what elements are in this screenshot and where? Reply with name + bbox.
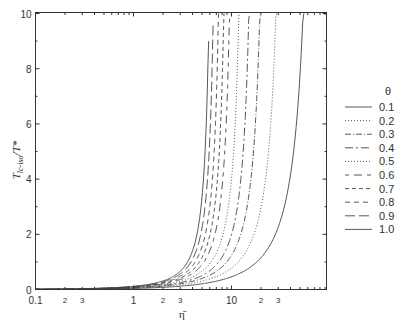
legend-item: 0.6 <box>345 169 394 181</box>
y-axis-title: Tlc-iso/T* <box>10 140 25 179</box>
plot-frame <box>36 13 327 290</box>
curve-theta-0.2 <box>36 14 277 290</box>
y-tick-label: 6 <box>26 119 32 130</box>
x-minor-tick-label: 3 <box>178 296 183 305</box>
curve-theta-0.9 <box>36 25 214 290</box>
curve-theta-0.6 <box>36 14 230 290</box>
legend-item: 1.0 <box>345 223 394 235</box>
x-axis-ticks: 0.1110232323 <box>29 13 325 306</box>
legend-label: 0.5 <box>379 155 394 167</box>
curve-theta-0.4 <box>36 14 250 290</box>
x-tick-label: 0.1 <box>29 295 43 306</box>
chart: 0246810 0.1110232323 Tlc-iso/T* η̄ θ 0.1… <box>0 0 406 328</box>
legend-item: 0.2 <box>345 115 394 127</box>
legend-label: 0.6 <box>379 169 394 181</box>
legend-title: θ <box>385 85 391 97</box>
legend-item: 0.9 <box>345 210 394 222</box>
legend: θ 0.10.20.30.40.50.60.70.80.91.0 <box>345 85 394 235</box>
legend-label: 0.8 <box>379 196 394 208</box>
curve-theta-0.7 <box>36 14 225 290</box>
curve-theta-0.8 <box>36 14 219 290</box>
legend-label: 0.4 <box>379 142 394 154</box>
legend-item: 0.7 <box>345 183 394 195</box>
y-axis-ticks: 0246810 <box>20 9 326 296</box>
x-minor-tick-label: 2 <box>259 296 264 305</box>
x-axis-title: η̄ <box>179 308 187 320</box>
legend-item: 0.3 <box>345 128 394 140</box>
x-tick-label: 10 <box>226 295 238 306</box>
x-tick-label: 1 <box>131 295 137 306</box>
curve-theta-0.3 <box>36 14 261 290</box>
y-tick-label: 8 <box>26 64 32 75</box>
legend-label: 0.7 <box>379 183 394 195</box>
x-minor-tick-label: 3 <box>80 296 85 305</box>
y-tick-label: 2 <box>26 229 32 240</box>
legend-label: 0.2 <box>379 115 394 127</box>
y-tick-label: 10 <box>20 9 32 20</box>
legend-item: 0.1 <box>345 101 394 113</box>
x-minor-tick-label: 2 <box>161 296 166 305</box>
y-tick-label: 4 <box>26 174 32 185</box>
legend-label: 1.0 <box>379 223 394 235</box>
data-curves <box>36 14 304 290</box>
legend-label: 0.1 <box>379 101 394 113</box>
x-minor-tick-label: 3 <box>276 296 281 305</box>
curve-theta-0.1 <box>36 14 304 290</box>
legend-label: 0.9 <box>379 210 394 222</box>
legend-item: 0.4 <box>345 142 394 154</box>
legend-label: 0.3 <box>379 128 394 140</box>
legend-item: 0.5 <box>345 155 394 167</box>
legend-item: 0.8 <box>345 196 394 208</box>
x-minor-tick-label: 2 <box>63 296 68 305</box>
curve-theta-1.0 <box>36 41 209 289</box>
svg-text:Tlc-iso/T*: Tlc-iso/T* <box>10 140 25 179</box>
